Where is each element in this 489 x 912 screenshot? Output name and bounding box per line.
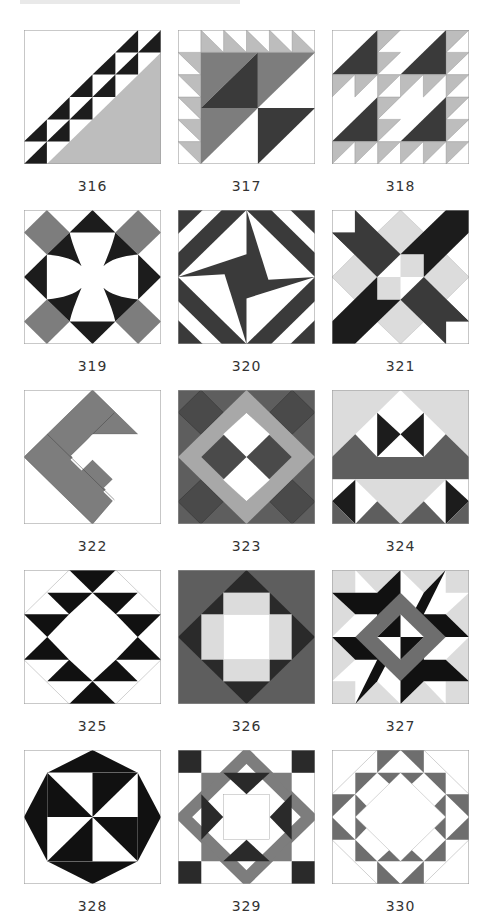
block-317-pattern-icon (178, 30, 315, 164)
block-325-pattern-icon (24, 570, 161, 704)
block-number-label: 319 (24, 358, 161, 374)
quilt-block-324[interactable] (332, 390, 469, 524)
block-330-pattern-icon (332, 750, 469, 884)
block-328-cell: 328 (24, 750, 161, 912)
block-316-pattern-icon (24, 30, 161, 164)
block-318-cell: 318 (332, 30, 469, 194)
block-318-pattern-icon (332, 30, 469, 164)
quilt-block-328[interactable] (24, 750, 161, 884)
block-316-cell: 316 (24, 30, 161, 194)
quilt-block-317[interactable] (178, 30, 315, 164)
block-329-cell: 329 (178, 750, 315, 912)
block-number-label: 323 (178, 538, 315, 554)
block-number-label: 330 (332, 898, 469, 912)
quilt-block-329[interactable] (178, 750, 315, 884)
block-324-pattern-icon (332, 390, 469, 524)
block-327-pattern-icon (332, 570, 469, 704)
block-number-label: 325 (24, 718, 161, 734)
block-317-cell: 317 (178, 30, 315, 194)
quilt-block-326[interactable] (178, 570, 315, 704)
block-number-label: 324 (332, 538, 469, 554)
quilt-block-318[interactable] (332, 30, 469, 164)
quilt-block-327[interactable] (332, 570, 469, 704)
quilt-block-grid: 316 317 (0, 0, 489, 912)
block-329-pattern-icon (178, 750, 315, 884)
block-number-label: 328 (24, 898, 161, 912)
quilt-block-320[interactable] (178, 210, 315, 344)
block-323-pattern-icon (178, 390, 315, 524)
block-324-cell: 324 (332, 390, 469, 554)
block-321-pattern-icon (332, 210, 469, 344)
block-number-label: 318 (332, 178, 469, 194)
block-319-cell: 319 (24, 210, 161, 374)
quilt-block-322[interactable] (24, 390, 161, 524)
block-322-pattern-icon (24, 390, 161, 524)
block-321-cell: 321 (332, 210, 469, 374)
block-number-label: 326 (178, 718, 315, 734)
block-328-pattern-icon (24, 750, 161, 884)
block-number-label: 316 (24, 178, 161, 194)
block-number-label: 321 (332, 358, 469, 374)
block-325-cell: 325 (24, 570, 161, 734)
quilt-block-319[interactable] (24, 210, 161, 344)
quilt-block-325[interactable] (24, 570, 161, 704)
block-326-pattern-icon (178, 570, 315, 704)
quilt-block-321[interactable] (332, 210, 469, 344)
block-number-label: 329 (178, 898, 315, 912)
block-326-cell: 326 (178, 570, 315, 734)
block-number-label: 322 (24, 538, 161, 554)
block-327-cell: 327 (332, 570, 469, 734)
block-320-cell: 320 (178, 210, 315, 374)
block-number-label: 320 (178, 358, 315, 374)
block-319-pattern-icon (24, 210, 161, 344)
block-330-cell: 330 (332, 750, 469, 912)
block-323-cell: 323 (178, 390, 315, 554)
block-number-label: 317 (178, 178, 315, 194)
block-322-cell: 322 (24, 390, 161, 554)
quilt-block-323[interactable] (178, 390, 315, 524)
block-number-label: 327 (332, 718, 469, 734)
block-320-pattern-icon (178, 210, 315, 344)
quilt-block-316[interactable] (24, 30, 161, 164)
quilt-block-330[interactable] (332, 750, 469, 884)
